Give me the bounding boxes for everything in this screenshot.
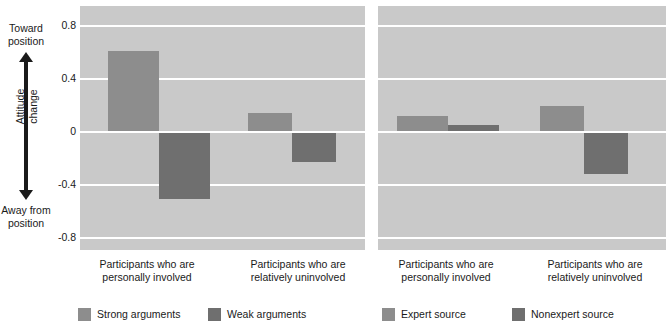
legend-label: Expert source xyxy=(401,308,466,321)
gridline-0.8 xyxy=(80,25,365,27)
y-tick-0: 0.8 xyxy=(61,20,76,31)
category-label-right-involved: Participants who are personally involved xyxy=(378,258,514,283)
chart-panel-left xyxy=(80,6,365,250)
gridline-0.8 xyxy=(378,25,666,27)
bar-left-g2-weak[interactable] xyxy=(292,133,336,162)
bar-left-g1-strong[interactable] xyxy=(108,51,159,131)
legend-swatch-icon xyxy=(512,308,525,321)
legend-swatch-icon xyxy=(78,308,91,321)
arrow-down-icon xyxy=(19,190,33,200)
category-label-left-involved: Participants who are personally involved xyxy=(82,258,212,283)
gridline--0.8 xyxy=(80,237,365,239)
bar-right-g1-expert[interactable] xyxy=(397,116,448,131)
bar-right-g2-expert[interactable] xyxy=(540,106,584,131)
gridline--0.4 xyxy=(378,184,666,186)
bar-right-g2-nonexpert[interactable] xyxy=(584,133,628,174)
legend-item-strong-arguments[interactable]: Strong arguments xyxy=(78,305,180,323)
y-tick-2: 0 xyxy=(70,126,76,137)
attitude-change-arrow: Attitude change xyxy=(18,52,34,200)
y-tick-3: -0.4 xyxy=(58,179,76,190)
legend: Strong arguments Weak arguments Expert s… xyxy=(0,305,672,325)
chart-panel-right xyxy=(378,6,666,250)
legend-label: Strong arguments xyxy=(97,308,180,321)
y-axis-title: Attitude change xyxy=(14,55,39,159)
gridline--0.8 xyxy=(378,237,666,239)
bar-left-g1-weak[interactable] xyxy=(159,133,210,199)
y-axis-tick-labels: 0.8 0.4 0 -0.4 -0.8 xyxy=(44,0,78,260)
gridline--0.4 xyxy=(80,184,365,186)
legend-item-expert-source[interactable]: Expert source xyxy=(382,305,466,323)
category-label-right-uninvolved: Participants who are relatively uninvolv… xyxy=(524,258,666,283)
legend-item-weak-arguments[interactable]: Weak arguments xyxy=(208,305,306,323)
y-tick-4: -0.8 xyxy=(58,232,76,243)
legend-swatch-icon xyxy=(208,308,221,321)
legend-swatch-icon xyxy=(382,308,395,321)
legend-item-nonexpert-source[interactable]: Nonexpert source xyxy=(512,305,614,323)
legend-label: Weak arguments xyxy=(227,308,306,321)
attitude-change-figure: Toward position Attitude change Away fro… xyxy=(0,0,672,328)
category-label-left-uninvolved: Participants who are relatively uninvolv… xyxy=(228,258,368,283)
legend-label: Nonexpert source xyxy=(531,308,614,321)
gridline-0.4 xyxy=(378,78,666,80)
y-tick-1: 0.4 xyxy=(61,73,76,84)
bar-left-g2-strong[interactable] xyxy=(248,113,292,131)
bar-right-g1-nonexpert[interactable] xyxy=(448,125,499,131)
